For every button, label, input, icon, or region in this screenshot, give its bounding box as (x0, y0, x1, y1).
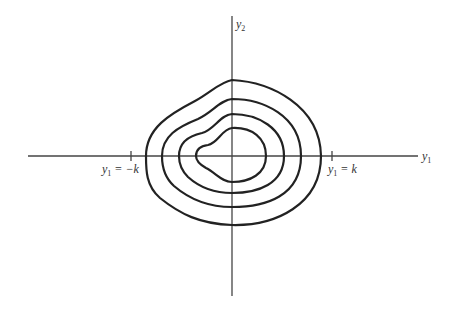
tick-label-plus-k: y1 = k (327, 162, 357, 178)
contour-lines (146, 80, 321, 225)
y2-axis-label: y2 (235, 17, 245, 33)
contour-diagram: y2 y1 y1 = −k y1 = k (0, 0, 454, 310)
contour-1 (146, 80, 321, 225)
tick-label-minus-k: y1 = −k (101, 162, 140, 178)
y1-axis-label: y1 (421, 149, 431, 165)
contour-4 (196, 128, 266, 182)
